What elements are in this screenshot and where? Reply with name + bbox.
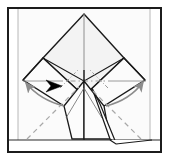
origami-diagram-canvas: [0, 0, 169, 160]
origami-diagram-figure: [0, 0, 169, 160]
